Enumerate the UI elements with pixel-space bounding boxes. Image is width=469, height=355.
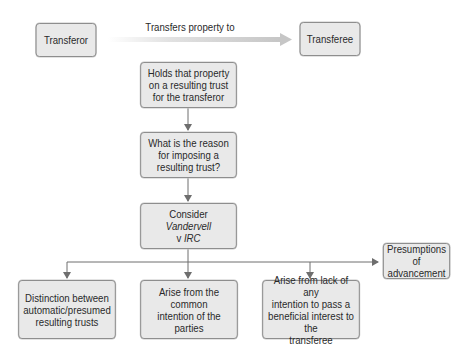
lack-of-intention-box: Arise from lack of any intention to pass… — [262, 280, 360, 339]
lack-line-4: transferee — [289, 334, 332, 346]
common-intention-box: Arise from the common intention of the p… — [140, 280, 238, 339]
common-line-2: intention of the parties — [157, 310, 220, 334]
transferee-label: Transferee — [307, 33, 353, 45]
common-line-1: Arise from the common — [159, 286, 219, 310]
transferee-box: Transferee — [300, 22, 361, 56]
holds-box: Holds that property on a resulting trust… — [140, 62, 237, 108]
transfer-arrow — [108, 33, 292, 46]
holds-line-3: for the transferor — [153, 91, 224, 103]
presumptions-box: Presumptions of advancement — [383, 243, 450, 279]
distinction-line-3: resulting trusts — [36, 316, 99, 328]
presumptions-line-1: Presumptions of — [387, 243, 446, 267]
reason-line-2: for imposing a — [158, 149, 219, 161]
consider-v: v — [176, 232, 184, 244]
consider-box: Consider Vandervell v IRC — [140, 203, 237, 249]
reason-line-3: resulting trust? — [157, 161, 220, 173]
distinction-line-2: automatic/presumed — [23, 304, 111, 316]
presumptions-line-2: advancement — [388, 267, 446, 279]
lack-line-1: Arise from lack of any — [274, 274, 349, 298]
distinction-line-1: Distinction between — [25, 292, 109, 304]
holds-line-1: Holds that property — [148, 67, 230, 79]
case-name-vandervell: Vandervell — [166, 220, 211, 232]
case-name-irc: IRC — [184, 232, 201, 244]
holds-line-2: on a resulting trust — [149, 79, 228, 91]
reason-box: What is the reason for imposing a result… — [140, 132, 237, 178]
transferor-label: Transferor — [44, 34, 88, 46]
lack-line-2: intention to pass a — [272, 298, 350, 310]
consider-line-1: Consider — [169, 208, 208, 220]
transferor-box: Transferor — [36, 23, 97, 57]
distinction-box: Distinction between automatic/presumed r… — [18, 280, 116, 339]
transfer-arrow-label: Transfers property to — [135, 21, 245, 33]
reason-line-1: What is the reason — [148, 137, 229, 149]
lack-line-3: beneficial interest to the — [268, 310, 354, 334]
